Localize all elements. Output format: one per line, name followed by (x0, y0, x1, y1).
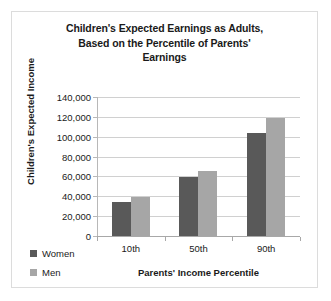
y-tick-label: 40,000 (62, 191, 91, 202)
y-tick-label: 60,000 (62, 171, 91, 182)
bar-men-90th (266, 118, 285, 236)
y-axis-title: Children's Expected Income (25, 57, 36, 187)
x-tick-label-10th: 10th (122, 243, 141, 254)
x-tick-mark (165, 237, 166, 241)
chart-legend: WomenMen (30, 244, 75, 282)
x-axis-line (97, 236, 300, 237)
plot-area: 140,000120,000100,00080,00060,00040,0002… (97, 97, 300, 237)
chart-title-line-3: Earnings (20, 50, 309, 65)
chart-container: Children's Expected Earnings as Adults, … (11, 11, 318, 288)
bar-group (165, 96, 233, 236)
bar-group (232, 96, 300, 236)
bar-men-10th (131, 197, 150, 236)
bar-group (97, 96, 165, 236)
chart-title: Children's Expected Earnings as Adults, … (20, 21, 309, 65)
y-tick-label: 80,000 (62, 151, 91, 162)
bar-women-90th (247, 133, 266, 236)
y-tick-label: 120,000 (57, 111, 91, 122)
y-tick-label: 140,000 (57, 92, 91, 103)
chart-title-line-2: Based on the Percentile of Parents' (20, 36, 309, 51)
x-tick-mark (232, 237, 233, 241)
x-tick-mark (300, 237, 301, 241)
legend-swatch-icon (30, 250, 37, 257)
chart-title-line-1: Children's Expected Earnings as Adults, (20, 21, 309, 36)
legend-label: Men (42, 267, 60, 278)
bar-men-50th (198, 171, 217, 236)
x-tick-label-50th: 50th (189, 243, 208, 254)
legend-item-men[interactable]: Men (30, 263, 75, 282)
legend-item-women[interactable]: Women (30, 244, 75, 263)
x-tick-label-90th: 90th (257, 243, 276, 254)
legend-label: Women (42, 248, 75, 259)
bar-women-10th (112, 202, 131, 236)
y-tick-label: 0 (86, 231, 91, 242)
legend-swatch-icon (30, 269, 37, 276)
bar-women-50th (179, 177, 198, 236)
x-axis-title: Parents' Income Percentile (97, 267, 300, 278)
y-tick-label: 20,000 (62, 211, 91, 222)
y-tick-label: 100,000 (57, 131, 91, 142)
x-tick-mark (97, 237, 98, 241)
